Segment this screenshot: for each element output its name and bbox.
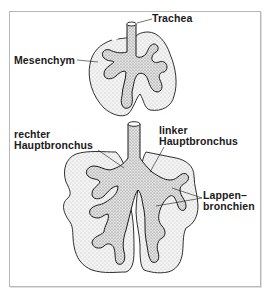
label-linker-hauptbronchus: linker Hauptbronchus: [159, 125, 238, 147]
label-rechter-hauptbronchus: rechter Hauptbronchus: [14, 129, 93, 151]
label-lappen-line2: bronchien: [203, 201, 255, 212]
label-lappenbronchien: Lappen– bronchien: [203, 190, 255, 212]
early-lung: [77, 19, 176, 116]
label-mesenchym: Mesenchym: [14, 55, 75, 66]
label-rechter-line2: Hauptbronchus: [14, 140, 93, 151]
trachea-opening-bottom: [128, 122, 140, 127]
label-linker-line2: Hauptbronchus: [159, 136, 238, 147]
trachea-leader: [137, 19, 152, 23]
label-mesenchym-text: Mesenchym: [14, 54, 75, 66]
trachea-opening-top: [127, 22, 137, 26]
label-trachea: Trachea: [152, 13, 192, 24]
label-trachea-text: Trachea: [152, 12, 192, 24]
